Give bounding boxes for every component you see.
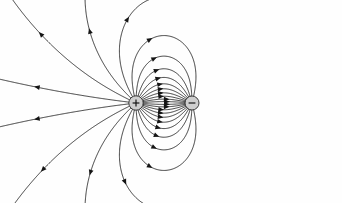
field-line-canvas [0,0,342,203]
dipole-field-figure [0,0,342,203]
negative-charge [185,96,199,110]
positive-charge [129,96,143,110]
